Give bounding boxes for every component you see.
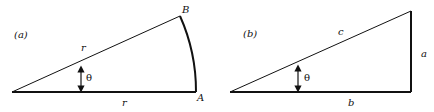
vertex-B-label: B: [181, 4, 189, 15]
panel-b-tag: (b): [243, 28, 257, 39]
opposite-label: a: [421, 48, 427, 59]
hypotenuse-line: [230, 11, 411, 92]
angle-theta-label: θ: [304, 72, 310, 83]
panel-a-tag: (a): [14, 29, 28, 40]
arc-AB: [180, 16, 196, 92]
radius-upper-label: r: [81, 42, 87, 53]
hypotenuse-label: c: [338, 26, 344, 37]
adjacent-label: b: [348, 97, 354, 108]
angle-theta-label: θ: [86, 72, 92, 83]
vertex-A-label: A: [196, 92, 204, 103]
radius-lower-label: r: [122, 97, 128, 108]
radius-upper-line: [12, 16, 180, 92]
panel-b-triangle: (b) c a b θ: [230, 11, 427, 108]
figure: (a) B A r r θ (b) c a b θ: [0, 0, 434, 112]
panel-a-sector: (a) B A r r θ: [12, 4, 204, 108]
